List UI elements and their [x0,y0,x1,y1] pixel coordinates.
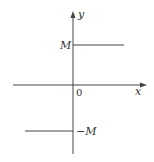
lower-level-label: −M [76,125,97,138]
y-axis [71,11,76,154]
y-axis-arrow-icon [71,11,76,18]
step-function-diagram: y x 0 M −M [0,0,154,162]
origin-label: 0 [76,87,82,98]
upper-level-label: M [59,39,72,52]
y-axis-label: y [77,8,85,21]
x-axis-label: x [135,85,142,98]
